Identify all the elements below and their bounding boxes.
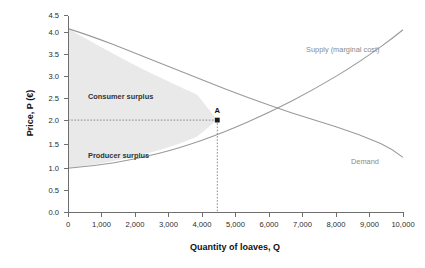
y-tick-label: 3.0	[48, 72, 59, 81]
y-tick-label: 2.0	[48, 116, 59, 125]
demand-curve-label: Demand	[351, 157, 379, 166]
y-tick-label: 1.5	[48, 140, 59, 149]
x-tick-label: 7,000	[293, 220, 312, 229]
y-tick-label: 0.5	[48, 186, 59, 195]
supply-curve-label: Supply (marginal cost)	[306, 45, 380, 54]
equilibrium-point-label: A	[215, 106, 221, 115]
x-tick-label: 8,000	[326, 220, 345, 229]
y-axis-tick-labels: 0.0 0.5 1.0 1.5 2.0 2.5 3.0 3.5 4.0 4.5	[48, 11, 59, 217]
x-axis-title: Quantity of loaves, Q	[190, 242, 280, 252]
y-tick-label: 0.0	[48, 208, 59, 217]
supply-demand-chart: 0.0 0.5 1.0 1.5 2.0 2.5 3.0 3.5 4.0 4.5	[0, 0, 425, 268]
x-tick-label: 5,000	[226, 220, 245, 229]
consumer-surplus-label: Consumer surplus	[88, 92, 153, 101]
x-tick-label: 4,000	[192, 220, 211, 229]
consumer-surplus-region	[68, 29, 217, 121]
producer-surplus-region	[68, 120, 217, 168]
y-tick-label: 2.5	[48, 94, 59, 103]
equilibrium-point-marker	[215, 118, 220, 123]
x-tick-label: 10,000	[391, 220, 414, 229]
x-axis-tick-labels: 0 1,000 2,000 3,000 4,000 5,000 6,000 7,…	[66, 220, 415, 229]
producer-surplus-label: Producer surplus	[88, 151, 149, 160]
y-tick-label: 4.0	[48, 28, 59, 37]
x-tick-label: 3,000	[159, 220, 178, 229]
chart-canvas: 0.0 0.5 1.0 1.5 2.0 2.5 3.0 3.5 4.0 4.5	[0, 0, 425, 268]
x-tick-label: 1,000	[92, 220, 111, 229]
x-axis-ticks	[68, 212, 403, 217]
y-tick-label: 1.0	[48, 164, 59, 173]
x-tick-label: 2,000	[125, 220, 144, 229]
x-tick-label: 9,000	[360, 220, 379, 229]
x-tick-label: 6,000	[259, 220, 278, 229]
y-tick-label: 3.5	[48, 50, 59, 59]
y-tick-label: 4.5	[48, 11, 59, 20]
y-axis-ticks	[64, 16, 69, 213]
x-tick-label: 0	[66, 220, 70, 229]
y-axis-title: Price, P (€)	[25, 90, 35, 136]
